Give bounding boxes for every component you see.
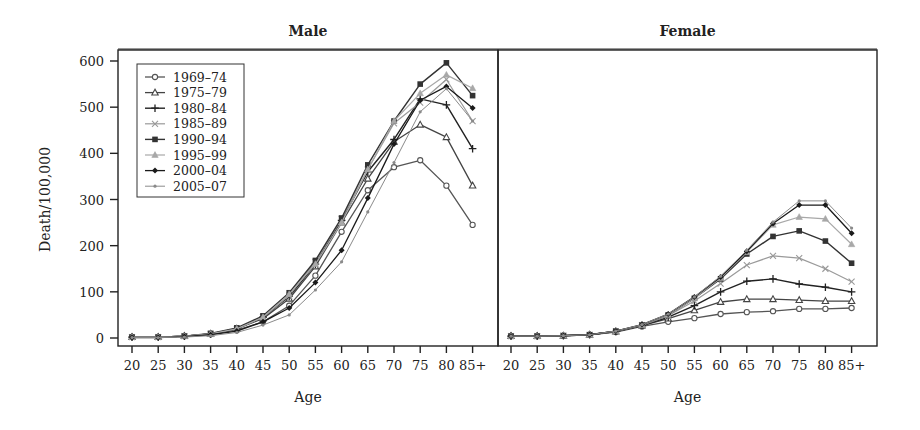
x-tick-label: 50 <box>281 358 298 373</box>
marker-circle <box>849 305 854 310</box>
marker-x <box>849 279 855 285</box>
marker-triangle-filled <box>796 214 802 220</box>
series-line <box>511 201 852 336</box>
marker-dot <box>445 87 448 90</box>
x-tick-label: 75 <box>412 358 429 373</box>
series-2000–04 <box>508 202 855 339</box>
marker-circle <box>823 306 828 311</box>
legend: 1969–741975–791980–841985–891990–941995–… <box>137 64 244 197</box>
y-tick-label: 600 <box>79 54 104 69</box>
marker-square <box>770 234 776 240</box>
marker-dot <box>471 119 474 122</box>
y-axis-label: Death/100,000 <box>37 147 53 252</box>
marker-diamond <box>365 195 371 201</box>
marker-circle <box>797 306 802 311</box>
marker-dot <box>640 323 643 326</box>
marker-dot <box>235 331 238 334</box>
series-2005–07 <box>509 199 853 337</box>
x-tick-label: 25 <box>150 358 167 373</box>
marker-circle <box>418 158 423 163</box>
marker-circle <box>470 222 475 227</box>
y-tick-label: 100 <box>79 285 104 300</box>
x-tick-label: 40 <box>608 358 625 373</box>
marker-x <box>744 262 750 268</box>
x-tick-label: 55 <box>307 358 324 373</box>
y-tick-label: 500 <box>79 100 104 115</box>
series-1980–84 <box>507 275 855 340</box>
panel-title: Male <box>289 23 328 39</box>
marker-dot <box>614 329 617 332</box>
legend-label: 1995–99 <box>173 148 227 163</box>
marker-circle <box>718 311 723 316</box>
series-line <box>511 217 852 336</box>
series-1975–79 <box>508 296 855 339</box>
marker-dot <box>771 221 774 224</box>
line-chart: Male2025303540455055606570758085+AgeFema… <box>0 0 920 430</box>
x-tick-label: 50 <box>660 358 677 373</box>
marker-dot <box>288 313 291 316</box>
marker-square <box>470 93 476 99</box>
x-tick-label: 75 <box>791 358 808 373</box>
marker-dot <box>588 333 591 336</box>
marker-circle <box>313 273 318 278</box>
x-tick-label: 65 <box>360 358 377 373</box>
x-axis-label: Age <box>293 389 321 405</box>
marker-plus <box>469 145 477 153</box>
series-1985–89 <box>508 253 855 339</box>
marker-dot <box>157 336 160 339</box>
x-tick-label: 85+ <box>459 358 486 373</box>
marker-dot <box>183 335 186 338</box>
x-tick-label: 20 <box>503 358 520 373</box>
marker-dot <box>536 335 539 338</box>
marker-x <box>822 266 828 272</box>
marker-dot <box>824 199 827 202</box>
marker-dot <box>130 336 133 339</box>
marker-square <box>444 60 450 66</box>
marker-dot <box>798 199 801 202</box>
marker-square <box>849 260 855 266</box>
marker-triangle-filled <box>443 71 449 77</box>
y-tick-label: 300 <box>79 193 104 208</box>
marker-dot <box>314 288 317 291</box>
marker-triangle <box>417 121 423 127</box>
x-tick-label: 60 <box>712 358 729 373</box>
x-tick-label: 85+ <box>838 358 865 373</box>
marker-dot <box>366 210 369 213</box>
legend-label: 1980–84 <box>173 101 227 116</box>
marker-plus <box>769 275 777 283</box>
x-tick-label: 40 <box>229 358 246 373</box>
marker-circle <box>744 310 749 315</box>
x-tick-label: 55 <box>686 358 703 373</box>
x-tick-label: 65 <box>739 358 756 373</box>
marker-square <box>152 137 158 143</box>
legend-label: 1985–89 <box>173 116 227 131</box>
marker-circle <box>152 74 157 79</box>
marker-circle <box>692 316 697 321</box>
marker-dot <box>745 249 748 252</box>
marker-square <box>417 81 423 87</box>
x-tick-label: 35 <box>202 358 219 373</box>
marker-plus <box>717 288 725 296</box>
series-line <box>511 256 852 336</box>
marker-dot <box>719 275 722 278</box>
marker-dot <box>850 227 853 230</box>
marker-plus <box>795 280 803 288</box>
series-1969–74 <box>508 305 854 338</box>
x-axis-label: Age <box>673 389 701 405</box>
legend-label: 1969–74 <box>173 70 227 85</box>
x-tick-label: 45 <box>255 358 272 373</box>
y-tick-label: 400 <box>79 146 104 161</box>
chart-container: Male2025303540455055606570758085+AgeFema… <box>0 0 920 430</box>
x-tick-label: 60 <box>333 358 350 373</box>
marker-triangle <box>469 182 475 188</box>
marker-dot <box>153 185 156 188</box>
legend-label: 2005–07 <box>173 179 227 194</box>
panel-title: Female <box>659 23 715 39</box>
marker-dot <box>392 161 395 164</box>
marker-circle <box>339 229 344 234</box>
marker-circle <box>365 188 370 193</box>
x-tick-label: 35 <box>581 358 598 373</box>
series-line <box>511 205 852 336</box>
marker-dot <box>209 334 212 337</box>
legend-label: 2000–04 <box>173 163 227 178</box>
